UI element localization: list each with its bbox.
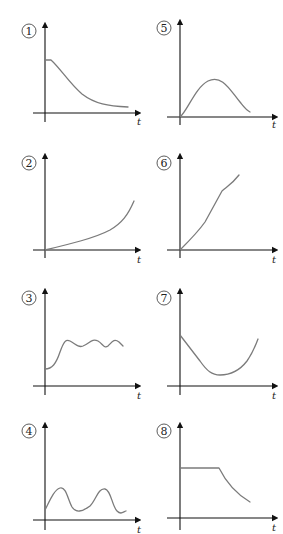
t-axis-label: t: [137, 390, 142, 401]
t-axis-label: t: [137, 524, 142, 534]
graph-panel-5: 5 t: [157, 21, 277, 130]
panel-number: 5: [161, 22, 168, 35]
t-axis-label: t: [272, 119, 277, 130]
panel-number: 3: [26, 292, 33, 305]
graph-panel-8: 8 t: [157, 424, 277, 533]
panel-number: 2: [26, 157, 33, 170]
graph-grid: 1 t 5 t 2 t 6 t 3 t: [0, 0, 283, 534]
panel-number: 4: [26, 425, 33, 438]
panel-number: 1: [26, 25, 33, 38]
t-axis-label: t: [272, 390, 277, 401]
t-axis-label: t: [272, 522, 277, 533]
curve-1: [45, 60, 128, 107]
graph-panel-6: 6 t: [157, 156, 277, 265]
curve-4: [45, 488, 126, 513]
t-axis-label: t: [137, 254, 142, 265]
graph-panel-7: 7 t: [157, 291, 277, 401]
graph-panel-4: 4 t: [22, 424, 142, 534]
graph-panel-3: 3 t: [22, 291, 142, 401]
graph-panel-2: 2 t: [22, 156, 142, 265]
curve-8: [180, 468, 250, 502]
curve-7: [180, 335, 258, 375]
panel-number: 7: [161, 292, 168, 305]
curve-2: [45, 201, 134, 250]
panel-number: 6: [161, 157, 168, 170]
curve-5: [180, 79, 250, 117]
panel-number: 8: [161, 425, 168, 438]
t-axis-label: t: [272, 254, 277, 265]
t-axis-label: t: [137, 116, 142, 127]
curve-6: [180, 175, 239, 250]
curve-3: [45, 340, 123, 369]
graph-panel-1: 1 t: [22, 24, 142, 127]
